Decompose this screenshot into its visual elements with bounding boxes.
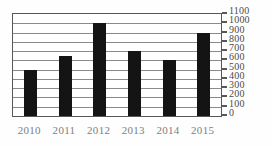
y-tick-label: 600 (229, 52, 245, 62)
y-axis: 010020030040050060070080090010001100 (222, 13, 272, 117)
y-tick-mark (222, 114, 227, 116)
x-tick-label-2012: 2012 (81, 124, 116, 137)
y-tick-label: 500 (229, 62, 245, 72)
y-tick-mark (222, 86, 227, 88)
bar-2011 (59, 56, 72, 116)
y-tick-mark (222, 49, 227, 51)
y-tick-mark (222, 77, 227, 79)
x-axis: 201020112012201320142015 (12, 124, 222, 142)
bars-group (13, 14, 221, 116)
bar-2014 (163, 60, 176, 116)
x-tick-label-2013: 2013 (116, 124, 151, 137)
x-tick-label-2015: 2015 (185, 124, 220, 137)
y-tick-mark (222, 68, 227, 70)
y-tick-label: 1000 (229, 15, 250, 25)
bar-2010 (24, 70, 37, 116)
x-tick-label-2010: 2010 (12, 124, 47, 137)
y-tick-mark (222, 105, 227, 107)
x-tick-label-2011: 2011 (47, 124, 82, 137)
y-tick-label: 700 (229, 43, 245, 53)
y-tick-mark (222, 21, 227, 23)
y-tick-mark (222, 12, 227, 14)
y-tick-label: 1100 (229, 6, 249, 16)
x-tick-label-2014: 2014 (151, 124, 186, 137)
y-tick-mark (222, 40, 227, 42)
y-tick-label: 400 (229, 71, 245, 81)
y-tick-label: 900 (229, 25, 245, 35)
y-tick-mark (222, 31, 227, 33)
y-tick-label: 100 (229, 99, 245, 109)
y-tick-label: 0 (229, 108, 234, 118)
y-tick-label: 800 (229, 34, 245, 44)
y-tick-mark (222, 95, 227, 97)
bar-2012 (93, 23, 106, 116)
plot-area (12, 13, 222, 117)
y-tick-mark (222, 58, 227, 60)
y-tick-label: 300 (229, 80, 245, 90)
y-tick-label: 200 (229, 89, 245, 99)
bar-2013 (128, 51, 141, 116)
bar-chart: 010020030040050060070080090010001100 201… (0, 0, 272, 146)
bar-2015 (197, 33, 210, 116)
